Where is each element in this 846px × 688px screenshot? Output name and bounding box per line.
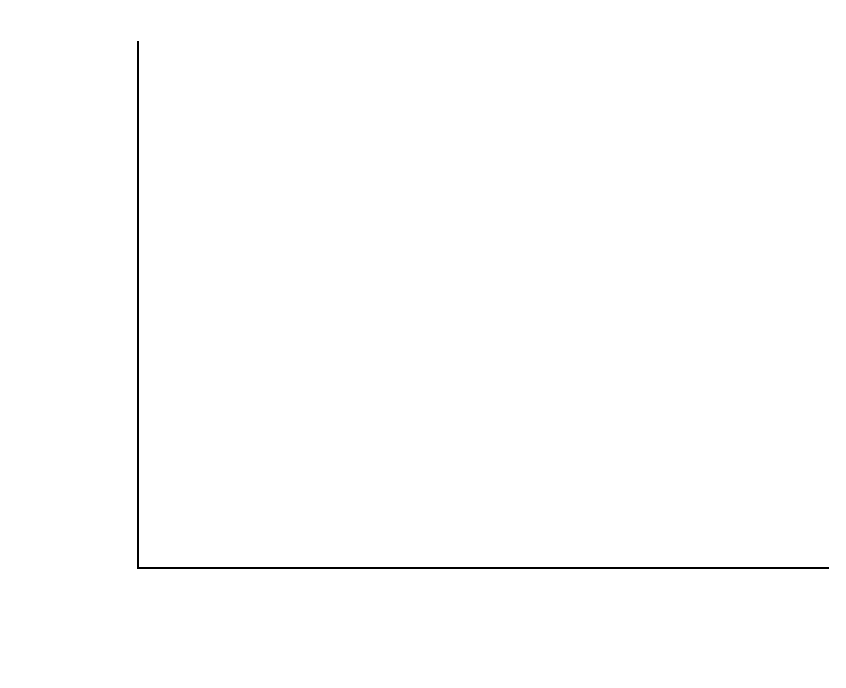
caption-sliver (0, 678, 846, 688)
bar-chart-figure (0, 0, 846, 688)
plot-area (138, 42, 828, 568)
